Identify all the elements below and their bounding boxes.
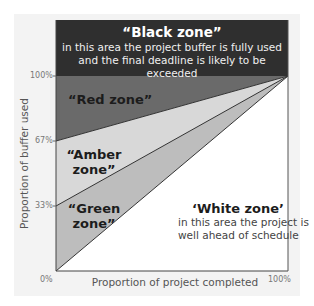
y-tick-label-33: 33% [35,201,53,210]
white-zone-label: ‘White zone’ in this area the project is… [178,201,298,242]
x-axis-label: Proportion of project completed [90,276,260,288]
black-zone-description: in this area the project buffer is fully… [56,41,288,80]
black-zone-title: “Black zone” [56,24,288,40]
green-zone-label: “Green zone” [64,201,124,231]
y-axis-label: Proportion of buffer used [18,109,30,229]
y-tick-label-0: 0% [40,275,53,284]
green-zone-label-line1: “Green [64,201,124,216]
white-zone-desc-line2: well ahead of schedule [178,229,298,242]
amber-zone-label-line1: “Amber [64,147,124,162]
amber-zone-label-line2: zone” [64,162,124,177]
green-zone-label-line2: zone” [64,216,124,231]
y-tick-label-100: 100% [30,71,53,80]
amber-zone-label: “Amber zone” [64,147,124,177]
y-tick-label-67: 67% [35,136,53,145]
white-zone-desc-line1: in this area the project is [178,216,298,229]
x-tick-label-100: 100% [268,275,291,284]
red-zone-label: “Red zone” [68,92,152,107]
white-zone-title: ‘White zone’ [178,201,298,216]
